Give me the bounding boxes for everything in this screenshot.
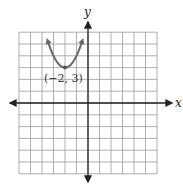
vertex-point (63, 66, 67, 70)
x-axis-label: x (175, 96, 182, 110)
graph: x y (−2, 3) (0, 0, 183, 187)
vertex-label: (−2, 3) (44, 72, 83, 85)
y-axis-label: y (83, 5, 91, 19)
axes (10, 22, 172, 182)
